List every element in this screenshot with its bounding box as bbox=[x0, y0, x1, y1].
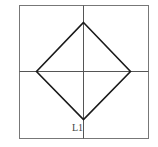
diagram-canvas: L1 bbox=[0, 0, 158, 147]
label-l1: L1 bbox=[72, 122, 83, 133]
